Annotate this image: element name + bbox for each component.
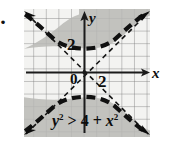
origin-label: 0 bbox=[70, 72, 78, 87]
inequality-rhs-variable: x bbox=[106, 112, 114, 129]
inequality-rhs-exponent: 2 bbox=[114, 112, 119, 122]
x-tick-label-2: 2 bbox=[98, 73, 107, 90]
inequality-label: y2 > 4 + x2 bbox=[52, 112, 118, 130]
x-axis-label: x bbox=[152, 66, 160, 81]
problem-number-marker: ). bbox=[0, 4, 13, 30]
figure-root: ). bbox=[0, 0, 170, 143]
origin-dot bbox=[82, 70, 86, 74]
inequality-operator: > bbox=[68, 112, 77, 129]
inequality-constant: 4 bbox=[81, 112, 89, 129]
y-axis-label: y bbox=[89, 11, 96, 26]
inequality-lhs-exponent: 2 bbox=[59, 112, 64, 122]
inequality-plus-sign: + bbox=[93, 112, 102, 129]
y-tick-label-2: 2 bbox=[67, 36, 76, 53]
